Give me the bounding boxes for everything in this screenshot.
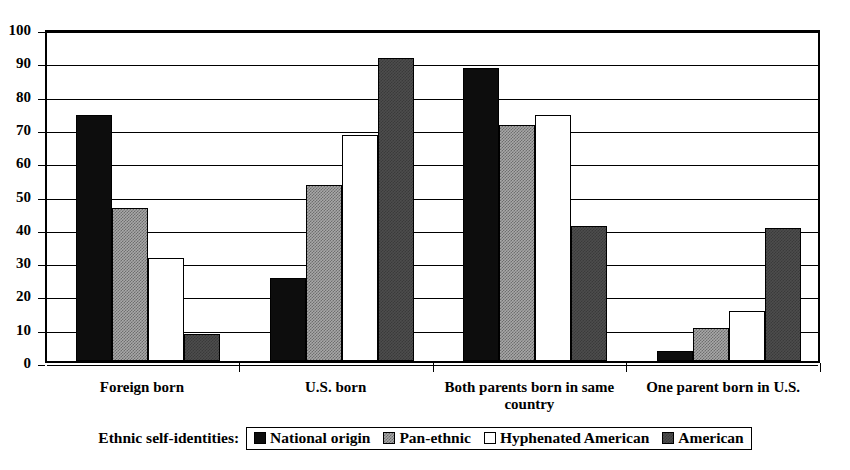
x-tick — [239, 363, 240, 372]
x-tick — [626, 363, 627, 372]
bar — [76, 115, 112, 361]
bar — [571, 226, 607, 361]
y-axis-label: 90 — [0, 56, 31, 71]
legend-swatch — [662, 432, 674, 444]
legend-item: American — [662, 430, 743, 446]
legend-label: Pan-ethnic — [399, 430, 470, 446]
legend-label: American — [678, 430, 743, 446]
x-category-label: U.S. born — [239, 379, 433, 396]
y-axis-label: 60 — [0, 156, 31, 171]
bar — [499, 125, 535, 361]
y-axis-label: 80 — [0, 89, 31, 104]
chart-figure: 0102030405060708090100 Foreign bornU.S. … — [0, 0, 850, 470]
y-tick — [38, 199, 45, 200]
bar — [463, 68, 499, 361]
legend-label: Hyphenated American — [500, 430, 649, 446]
legend-item: National origin — [254, 430, 370, 446]
x-category-label: Both parents born in same country — [433, 379, 627, 413]
legend-item: Hyphenated American — [484, 430, 649, 446]
y-tick — [38, 332, 45, 333]
bar — [693, 328, 729, 361]
x-tick — [433, 363, 434, 372]
y-tick — [38, 65, 45, 66]
y-axis-label: 0 — [0, 356, 31, 371]
y-axis-label: 30 — [0, 256, 31, 271]
y-tick — [38, 132, 45, 133]
y-tick — [38, 232, 45, 233]
bar — [535, 115, 571, 361]
y-tick — [38, 32, 45, 33]
y-axis-label: 100 — [0, 23, 31, 38]
bar — [112, 208, 148, 361]
bar — [270, 278, 306, 361]
y-tick — [38, 365, 45, 366]
y-tick — [38, 99, 45, 100]
bar — [184, 334, 220, 361]
y-axis-label: 70 — [0, 122, 31, 137]
y-tick — [38, 298, 45, 299]
plot-area — [45, 30, 820, 363]
legend-swatch — [383, 432, 395, 444]
legend-swatch — [254, 432, 266, 444]
x-category-label: Foreign born — [45, 379, 239, 396]
y-tick — [38, 165, 45, 166]
legend-title: Ethnic self-identities: — [98, 429, 239, 447]
legend-box: National originPan-ethnicHyphenated Amer… — [246, 427, 752, 450]
bar — [657, 351, 693, 361]
bar — [378, 58, 414, 361]
legend-item: Pan-ethnic — [383, 430, 470, 446]
legend: Ethnic self-identities: National originP… — [0, 427, 850, 450]
bar — [765, 228, 801, 361]
y-axis-label: 40 — [0, 222, 31, 237]
y-axis-label: 50 — [0, 189, 31, 204]
x-tick — [820, 363, 821, 372]
x-category-label: One parent born in U.S. — [626, 379, 820, 396]
bar — [342, 135, 378, 361]
y-tick — [38, 265, 45, 266]
y-axis-label: 10 — [0, 322, 31, 337]
y-axis-label: 20 — [0, 289, 31, 304]
legend-label: National origin — [270, 430, 370, 446]
bar — [306, 185, 342, 361]
bars-layer — [47, 32, 818, 361]
legend-swatch — [484, 432, 496, 444]
bar — [729, 311, 765, 361]
bar — [148, 258, 184, 361]
